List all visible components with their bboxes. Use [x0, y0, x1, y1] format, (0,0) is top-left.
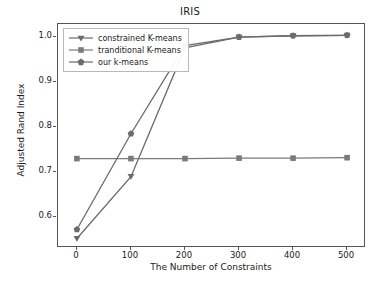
- y-tick-mark: [53, 216, 56, 217]
- legend-marker-pentagon-icon: [68, 56, 94, 68]
- x-tick-mark: [130, 247, 131, 250]
- x-tick-label: 400: [272, 250, 312, 260]
- data-point-marker: [74, 226, 81, 232]
- data-point-marker: [236, 155, 242, 161]
- y-axis-tick-labels: 0.60.70.80.91.0: [22, 0, 52, 285]
- y-tick-label: 1.0: [26, 31, 52, 40]
- legend-item-our-kmeans[interactable]: our k-means: [68, 56, 182, 68]
- x-tick-label: 200: [164, 250, 204, 260]
- y-tick-mark: [53, 126, 56, 127]
- data-point-marker: [74, 156, 80, 162]
- x-tick-mark: [184, 247, 185, 250]
- x-tick-label: 500: [326, 250, 366, 260]
- legend-item-constrained-kmeans[interactable]: constrained K-means: [68, 32, 182, 44]
- x-tick-mark: [238, 247, 239, 250]
- y-tick-label: 0.8: [26, 121, 52, 130]
- data-point-marker: [344, 155, 350, 161]
- x-tick-mark: [346, 247, 347, 250]
- data-point-marker: [128, 156, 134, 162]
- chart-figure: IRIS Adjusted Rand Index 0.60.70.80.91.0…: [0, 0, 380, 285]
- x-tick-mark: [76, 247, 77, 250]
- x-tick-label: 300: [218, 250, 258, 260]
- x-tick-label: 0: [56, 250, 96, 260]
- legend-item-tranditional-kmeans[interactable]: tranditional K-means: [68, 44, 182, 56]
- y-tick-label: 0.7: [26, 166, 52, 175]
- legend-label: our k-means: [94, 58, 148, 67]
- data-point-marker: [290, 155, 296, 161]
- y-tick-label: 0.6: [26, 211, 52, 220]
- y-tick-mark: [53, 81, 56, 82]
- data-point-marker: [74, 236, 81, 242]
- legend-label: tranditional K-means: [94, 46, 181, 55]
- x-tick-mark: [292, 247, 293, 250]
- x-axis-label: The Number of Constraints: [57, 262, 365, 272]
- legend-label: constrained K-means: [94, 34, 182, 43]
- y-tick-mark: [53, 171, 56, 172]
- y-tick-label: 0.9: [26, 76, 52, 85]
- x-tick-label: 100: [110, 250, 150, 260]
- y-tick-mark: [53, 36, 56, 37]
- legend-marker-triangle-down-icon: [68, 32, 94, 44]
- chart-legend: constrained K-means tranditional K-means…: [63, 28, 189, 72]
- chart-title: IRIS: [0, 6, 380, 17]
- data-point-marker: [128, 130, 135, 136]
- data-point-marker: [182, 156, 188, 162]
- legend-marker-square-icon: [68, 44, 94, 56]
